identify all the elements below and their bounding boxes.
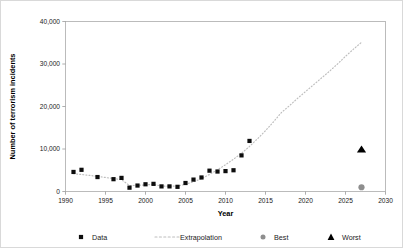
- x-tick-label: 2020: [298, 197, 313, 204]
- data-point-marker: [183, 181, 187, 185]
- worst-case-marker: [357, 145, 366, 152]
- data-point-marker: [175, 185, 179, 189]
- legend-item-label: Best: [274, 233, 288, 242]
- data-point-marker: [111, 177, 115, 181]
- data-point-marker: [247, 139, 251, 143]
- data-series: [71, 139, 251, 190]
- legend-item-label: Extrapolation: [180, 233, 222, 242]
- data-point-marker: [127, 186, 131, 190]
- chart-canvas: 010,00020,00030,00040,000 19901995200020…: [1, 1, 403, 248]
- data-point-marker: [215, 169, 219, 173]
- scenario-markers: [357, 145, 366, 190]
- data-point-marker: [143, 182, 147, 186]
- best-case-marker: [358, 184, 364, 190]
- y-tick-label: 30,000: [40, 60, 61, 67]
- data-point-marker: [151, 182, 155, 186]
- legend-square-icon: [79, 235, 83, 239]
- data-point-marker: [79, 168, 83, 172]
- legend-triangle-icon: [328, 234, 335, 240]
- data-point-marker: [239, 153, 243, 157]
- data-point-marker: [231, 168, 235, 172]
- data-point-marker: [167, 184, 171, 188]
- x-tick-label: 1995: [98, 197, 113, 204]
- legend-item[interactable]: Best: [261, 233, 289, 242]
- data-point-marker: [119, 176, 123, 180]
- legend-item[interactable]: Data: [79, 233, 107, 242]
- x-tick-label: 2015: [258, 197, 273, 204]
- extrapolation-series: [74, 42, 362, 186]
- data-point-marker: [159, 184, 163, 188]
- data-point-marker: [95, 175, 99, 179]
- x-tick-label: 2030: [378, 197, 393, 204]
- x-tick-label: 2000: [138, 197, 153, 204]
- y-axis: 010,00020,00030,00040,000: [40, 18, 66, 195]
- data-point-marker: [207, 169, 211, 173]
- y-tick-label: 10,000: [40, 145, 61, 152]
- legend-item-label: Data: [92, 233, 107, 242]
- legend-item-label: Worst: [342, 233, 361, 242]
- x-tick-label: 2025: [338, 197, 353, 204]
- data-point-marker: [223, 169, 227, 173]
- legend-item[interactable]: Extrapolation: [155, 233, 222, 242]
- data-point-marker: [135, 183, 139, 187]
- x-tick-label: 1990: [58, 197, 73, 204]
- data-point-marker: [191, 178, 195, 182]
- y-tick-label: 40,000: [40, 18, 61, 25]
- x-axis-title: Year: [218, 209, 234, 218]
- plot-area-frame: [66, 22, 386, 192]
- y-axis-title: Number of terrorism incidents: [8, 54, 17, 160]
- x-tick-label: 2005: [178, 197, 193, 204]
- y-tick-label: 20,000: [40, 103, 61, 110]
- x-tick-label: 2010: [218, 197, 233, 204]
- chart-legend: DataExtrapolationBestWorst: [79, 233, 361, 242]
- legend-circle-icon: [261, 235, 266, 240]
- y-tick-label: 0: [56, 188, 60, 195]
- data-point-marker: [71, 170, 75, 174]
- chart-figure: 010,00020,00030,00040,000 19901995200020…: [0, 0, 403, 248]
- data-point-marker: [199, 175, 203, 179]
- x-axis: 199019952000200520102015202020252030: [58, 192, 393, 204]
- legend-item[interactable]: Worst: [328, 233, 361, 242]
- extrapolation-curve: [74, 42, 362, 186]
